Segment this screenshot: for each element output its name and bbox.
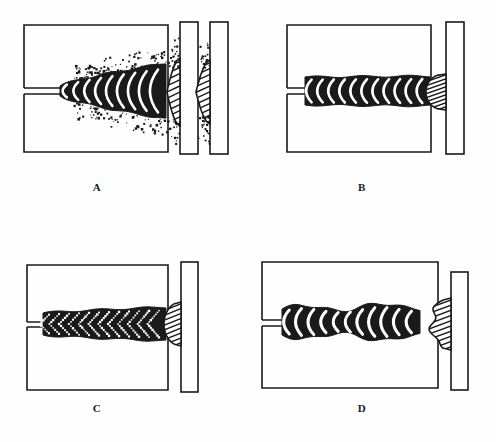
panel-C-bead-ripple-dot <box>74 317 76 319</box>
panel-C-bead-ripple-dot <box>96 313 98 315</box>
panel-C-bead-ripple-dot <box>124 331 126 333</box>
panel-C-bead-ripple-dot <box>40 321 42 323</box>
panel-A-bead-spatter-dot <box>82 116 84 118</box>
panel-C-bead-ripple-dot <box>146 312 148 314</box>
panel-A-section-plate-left-spatter-dot <box>176 126 177 127</box>
panel-C-bead-ripple-dot <box>140 327 142 329</box>
panel-D-section-plate-plate <box>451 272 468 390</box>
panel-C-bead-ripple-dot <box>143 316 145 318</box>
panel-C-bead-ripple-dot <box>131 328 133 330</box>
panel-C-bead-ripple-dot <box>88 312 90 314</box>
panel-A-bead-spatter-dot <box>115 64 116 65</box>
panel-C-bead-ripple-dot <box>99 325 101 327</box>
panel-A-bead-spatter-dot <box>98 117 101 120</box>
panel-A-section-plate-right-spatter-dot <box>205 55 207 57</box>
panel-C-bead-ripple-dot <box>99 321 101 323</box>
panel-A-section-plate-left-spatter-dot <box>179 125 181 127</box>
panel-A-bead-spatter-dot <box>143 123 145 125</box>
panel-A-section-plate-right-spatter-dot <box>209 143 211 145</box>
panel-A-section-plate-left-spatter-dot <box>175 53 177 55</box>
panel-C-bead-ripple-dot <box>129 325 131 327</box>
panel-A-bead-spatter-dot <box>79 68 80 69</box>
panel-A-bead-spatter-dot <box>105 58 107 60</box>
panel-A-bead-spatter-dot <box>97 72 100 75</box>
panel-A-section-plate-left-spatter-dot <box>179 122 181 124</box>
panel-C-bead-ripple-dot <box>56 331 58 333</box>
panel-label-c: C <box>77 402 117 414</box>
panel-A-bead-spatter-dot <box>133 130 135 132</box>
panel-A-bead-spatter-dot <box>128 61 129 62</box>
panel-A-section-plate-left-plate <box>180 22 198 154</box>
panel-C-bead-ripple-dot <box>138 336 140 338</box>
panel-C-bead-ripple-dot <box>126 334 128 336</box>
panel-A-section-plate-left-spatter-dot <box>171 136 172 137</box>
panel-D-section-plate-hatch-line <box>426 346 453 356</box>
panel-C-bead-ripple-dot <box>58 333 60 335</box>
panel-C-bead-ripple-dot <box>95 315 97 317</box>
panel-C-bead-ripple-dot <box>76 315 78 317</box>
panel-C-bead-ripple-dot <box>70 321 72 323</box>
panel-A-bead-spatter-dot <box>133 56 135 58</box>
panel-A-bead-spatter-dot <box>75 65 78 68</box>
panel-A-bead-spatter-dot <box>103 66 105 68</box>
panel-A-bead-spatter-dot <box>96 72 98 74</box>
panel-A-section-plate-right-plate <box>210 22 228 154</box>
panel-A-bead-spatter-dot <box>156 64 158 66</box>
panel-A-bead-spatter-dot <box>145 119 146 120</box>
panel-A-section-plate-left-hatch-line <box>161 122 182 132</box>
panel-C-bead-ripple-dot <box>54 329 56 331</box>
panel-C-bead-ripple-dot <box>72 327 74 329</box>
panel-C-bead-ripple-dot <box>158 336 160 338</box>
panel-A-bead-spatter-dot <box>85 68 87 70</box>
panel-A-bead-spatter-dot <box>117 69 119 71</box>
panel-C-bead-ripple-dot <box>108 335 110 337</box>
panel-C-bead-ripple-dot <box>93 317 95 319</box>
panel-A-section-plate-right-spatter-dot <box>199 138 200 139</box>
panel-A-section-plate-left-spatter-dot <box>174 40 176 42</box>
panel-A-bead-spatter-dot <box>160 119 161 120</box>
panel-A-bead-spatter-dot <box>100 114 102 116</box>
panel-A-section-plate-right-spatter-dot <box>203 63 205 65</box>
panel-A-bead-spatter-dot <box>164 120 166 122</box>
panel-A-bead-spatter-dot <box>119 115 121 117</box>
panel-C-bead-ripple-dot <box>62 327 64 329</box>
panel-A-bead-spatter-dot <box>126 114 127 115</box>
panel-label-a: A <box>77 181 117 193</box>
panel-A-section-plate-right-spatter-dot <box>198 137 199 138</box>
panel-A-bead-spatter-dot <box>164 54 166 56</box>
panel-A-bead-spatter-dot <box>107 68 109 70</box>
panel-C-bead-ripple-dot <box>64 317 66 319</box>
panel-C-bead-ripple-dot <box>105 331 107 333</box>
panel-C-bead-ripple-dot <box>106 333 108 335</box>
panel-A-bead-spatter-dot <box>78 103 81 106</box>
panel-A-bead-spatter-dot <box>166 131 168 133</box>
panel-C-bead-ripple-dot <box>91 327 93 329</box>
welding-bead-figure <box>0 0 496 442</box>
panel-C-bead-ripple-dot <box>150 327 152 329</box>
panel-C-bead-ripple-dot <box>98 312 100 314</box>
panel-C-bead-ripple-dot <box>111 319 113 321</box>
panel-C-bead-ripple-dot <box>108 311 110 313</box>
panel-C-bead-ripple-dot <box>137 323 139 325</box>
panel-C-bead-ripple-dot <box>95 331 97 333</box>
panel-A-section-plate-right-spatter-dot <box>203 67 204 68</box>
panel-A-section-plate-left-spatter-dot <box>175 143 177 145</box>
panel-A-bead-spatter-dot <box>155 58 157 60</box>
panel-A-bead-spatter-dot <box>106 113 108 115</box>
panel-A-bead-spatter-dot <box>134 54 136 56</box>
panel-C-bead-ripple-dot <box>98 334 100 336</box>
panel-A-bead-spatter-dot <box>108 118 110 120</box>
panel-A-section-plate-right-spatter-dot <box>202 116 203 117</box>
panel-C-bead-ripple-dot <box>146 334 148 336</box>
panel-C-bead-ripple-dot <box>115 315 117 317</box>
panel-C-bead-ripple-dot <box>101 319 103 321</box>
panel-A-bead <box>60 51 171 136</box>
panel-A-bead-spatter-dot <box>87 72 88 73</box>
panel-A-bead-spatter-dot <box>161 52 164 55</box>
panel-A-bead-spatter-dot <box>95 68 97 70</box>
panel-C-bead-ripple-dot <box>78 312 80 314</box>
panel-A-bead-spatter-dot <box>156 54 157 55</box>
panel-C-bead-ripple-dot <box>113 329 115 331</box>
panel-C-bead-ripple-dot <box>153 316 155 318</box>
panel-C-bead-ripple-dot <box>62 319 64 321</box>
